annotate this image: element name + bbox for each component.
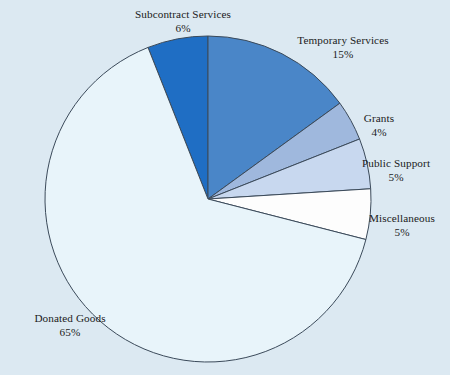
slice-label-miscellaneous: Miscellaneous 5% — [355, 212, 449, 239]
slice-label-subcontract-services: Subcontract Services 6% — [123, 8, 243, 35]
slice-label-name: Temporary Services — [282, 34, 404, 48]
slice-label-percent: 65% — [18, 326, 122, 340]
slice-label-grants: Grants 4% — [348, 112, 410, 139]
slice-label-name: Subcontract Services — [123, 8, 243, 22]
slice-label-percent: 5% — [347, 171, 445, 185]
slice-label-public-support: Public Support 5% — [347, 157, 445, 184]
slice-label-donated-goods: Donated Goods 65% — [18, 312, 122, 339]
pie-chart-figure: Subcontract Services 6% Temporary Servic… — [0, 0, 450, 375]
slice-label-percent: 5% — [355, 226, 449, 240]
slice-label-temporary-services: Temporary Services 15% — [282, 34, 404, 61]
slice-label-percent: 4% — [348, 126, 410, 140]
slice-label-name: Miscellaneous — [355, 212, 449, 226]
slice-label-percent: 6% — [123, 22, 243, 36]
slice-label-percent: 15% — [282, 48, 404, 62]
slice-label-name: Donated Goods — [18, 312, 122, 326]
slice-label-name: Grants — [348, 112, 410, 126]
slice-label-name: Public Support — [347, 157, 445, 171]
